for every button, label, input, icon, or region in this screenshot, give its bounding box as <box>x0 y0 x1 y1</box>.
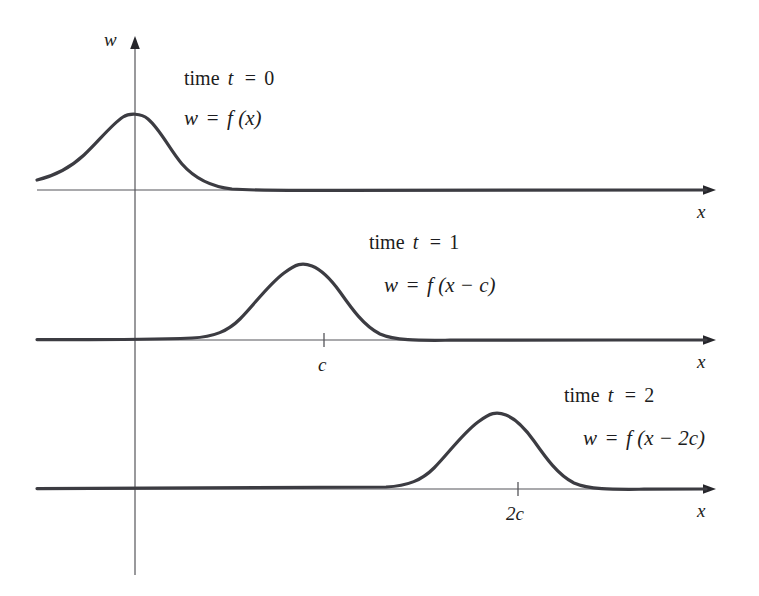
equation-fn-t2: f <box>626 426 632 450</box>
equation-lhs-t2: w <box>583 426 597 450</box>
time-value-t0: 0 <box>264 67 274 89</box>
equation-lhs-t0: w <box>184 106 198 130</box>
wave-figure: w x x x time t = 0 w = f (x) time t = 1 … <box>0 0 759 596</box>
equation-arg-t1: (x − c) <box>438 273 495 297</box>
x-axis-label-t1: x <box>697 352 705 371</box>
equation-annotation-t2: w = f (x − 2c) <box>583 428 705 449</box>
equation-equals-t0: = <box>203 106 222 130</box>
equation-lhs-t1: w <box>384 273 398 297</box>
time-annotation-t0: time t = 0 <box>184 68 274 88</box>
x-axis-label-t0: x <box>697 202 705 221</box>
time-equals-t0: = <box>241 67 259 89</box>
equation-annotation-t1: w = f (x − c) <box>384 275 495 296</box>
time-word-t2: time <box>564 384 600 406</box>
w-axis-group <box>130 36 140 575</box>
equation-annotation-t0: w = f (x) <box>184 108 261 129</box>
time-value-t1: 1 <box>449 231 459 253</box>
pulse-curve-t2 <box>37 413 706 489</box>
time-word-t0: time <box>184 67 220 89</box>
time-word-t1: time <box>369 231 405 253</box>
x-axis-label-t2: x <box>697 501 705 520</box>
time-var-t2: t <box>605 384 617 406</box>
tick-label-c: c <box>318 355 326 374</box>
equation-arg-t0: (x) <box>238 106 261 130</box>
equation-equals-t2: = <box>602 426 621 450</box>
equation-fn-t0: f <box>227 106 233 130</box>
equation-arg-t2: (x − 2c) <box>637 426 705 450</box>
pulse-curve-t0 <box>37 114 706 190</box>
time-value-t2: 2 <box>644 384 654 406</box>
w-axis-label: w <box>104 30 117 49</box>
time-annotation-t2: time t = 2 <box>564 385 654 405</box>
equation-fn-t1: f <box>427 273 433 297</box>
tick-label-2c: 2c <box>506 504 524 523</box>
time-equals-t1: = <box>426 231 444 253</box>
pulse-curve-t1 <box>37 264 706 340</box>
time-equals-t2: = <box>621 384 639 406</box>
time-annotation-t1: time t = 1 <box>369 232 459 252</box>
equation-equals-t1: = <box>403 273 422 297</box>
time-var-t1: t <box>410 231 422 253</box>
w-axis-arrowhead <box>130 36 140 49</box>
figure-canvas <box>0 0 759 596</box>
time-var-t0: t <box>225 67 237 89</box>
